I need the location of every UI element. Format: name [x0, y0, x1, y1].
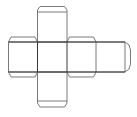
center-face — [38, 42, 68, 72]
cube-net-diagram — [0, 0, 137, 117]
bottom-face — [38, 72, 68, 107]
far-right-face — [96, 42, 131, 72]
left-face — [9, 37, 38, 77]
far-right-side-tab — [125, 42, 131, 72]
top-face — [38, 7, 68, 43]
right-face — [67, 37, 96, 77]
